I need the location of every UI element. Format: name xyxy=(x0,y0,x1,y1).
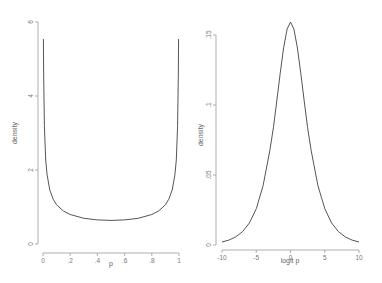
y-tick-label: 4 xyxy=(27,94,34,98)
y-tick-label: .05 xyxy=(205,170,212,179)
x-tick-label: 10 xyxy=(355,254,363,261)
x-tick-label: -10 xyxy=(217,254,227,261)
x-axis-title: logit p xyxy=(281,257,300,265)
x-tick-label: -5 xyxy=(253,254,259,261)
right-panel-logit-density: 0.05.1.15-10-50510densitylogit p xyxy=(197,22,363,265)
y-tick-label: .15 xyxy=(205,30,212,39)
figure: 02460.2.4.6.81densityp 0.05.1.15-10-5051… xyxy=(0,0,382,283)
y-tick-label: 6 xyxy=(27,20,34,24)
x-tick-label: .6 xyxy=(122,257,128,264)
y-tick-label: 0 xyxy=(205,243,212,247)
y-tick-label: .1 xyxy=(205,102,212,108)
y-tick-label: 0 xyxy=(27,242,34,246)
x-tick-label: 0 xyxy=(41,257,45,264)
x-tick-label: .8 xyxy=(149,257,155,264)
x-tick-label: .4 xyxy=(95,257,101,264)
x-axis-title: p xyxy=(109,260,113,268)
y-tick-label: 2 xyxy=(27,168,34,172)
y-axis-title: density xyxy=(197,123,205,146)
y-axis-title: density xyxy=(11,121,19,144)
x-tick-label: .2 xyxy=(67,257,73,264)
x-tick-label: 1 xyxy=(177,257,181,264)
left-panel-beta-density: 02460.2.4.6.81densityp xyxy=(11,20,181,268)
density-curve xyxy=(43,39,178,220)
x-tick-label: 5 xyxy=(323,254,327,261)
density-curve xyxy=(222,22,359,242)
